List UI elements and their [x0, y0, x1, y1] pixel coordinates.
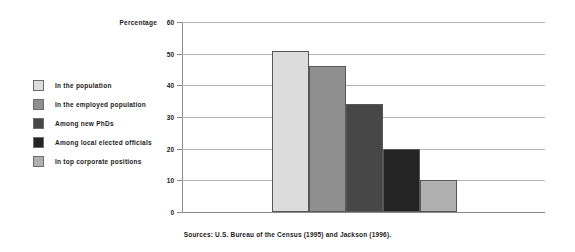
y-axis-tick [177, 212, 182, 213]
y-axis-tick-label: 10 [167, 177, 174, 184]
bar-in-the-employed-population [309, 66, 346, 212]
bar-among-local-elected-officials [383, 149, 420, 212]
legend-swatch-icon [33, 99, 44, 110]
y-axis-tick [177, 149, 182, 150]
plot-area: Percentage 60 50 40 30 20 10 0 [182, 22, 545, 212]
legend-item-label: Among local elected officials [55, 139, 152, 146]
y-axis-tick-label: 0 [170, 209, 174, 216]
bar-in-the-population [272, 51, 309, 213]
legend-item-label: In the employed population [55, 101, 146, 108]
legend-swatch-icon [33, 118, 44, 129]
y-axis-tick-label: 30 [167, 114, 174, 121]
legend-swatch-icon [33, 156, 44, 167]
chart-figure: In the population In the employed popula… [0, 0, 575, 252]
y-axis-tick [177, 22, 182, 23]
y-axis-tick-label: 40 [167, 82, 174, 89]
y-axis-tick [177, 180, 182, 181]
legend-item-label: Among new PhDs [55, 120, 114, 127]
legend-swatch-icon [33, 80, 44, 91]
legend-item: In the employed population [33, 95, 183, 114]
y-axis-tick [177, 117, 182, 118]
chart-legend: In the population In the employed popula… [33, 76, 183, 171]
y-axis-tick-label: 50 [167, 50, 174, 57]
bar-among-new-phds [346, 104, 383, 212]
y-axis-tick [177, 85, 182, 86]
legend-item: In top corporate positions [33, 152, 183, 171]
gridline: 0 [182, 212, 545, 213]
legend-item: Among local elected officials [33, 133, 183, 152]
bar-in-top-corporate-positions [420, 180, 457, 212]
y-axis-tick-label: 20 [167, 145, 174, 152]
legend-item-label: In the population [55, 82, 112, 89]
source-caption: Sources: U.S. Bureau of the Census (1995… [0, 231, 575, 238]
bar-group [272, 22, 457, 212]
legend-item-label: In top corporate positions [55, 158, 142, 165]
y-axis-title: Percentage [119, 19, 157, 26]
y-axis-tick-label: 60 [167, 19, 174, 26]
y-axis-tick [177, 54, 182, 55]
legend-item: Among new PhDs [33, 114, 183, 133]
legend-swatch-icon [33, 137, 44, 148]
legend-item: In the population [33, 76, 183, 95]
